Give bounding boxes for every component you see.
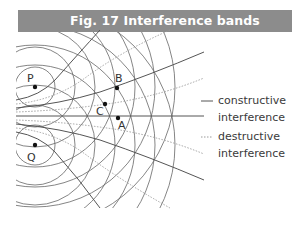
- label-b: B: [115, 72, 123, 85]
- label-a: A: [118, 119, 126, 132]
- legend-constructive-line1: constructive: [218, 94, 286, 108]
- source-q-dot: [33, 143, 37, 147]
- legend-destructive-label: destructive interference: [218, 130, 285, 161]
- legend-destructive-line1: destructive: [218, 130, 285, 144]
- source-p-dot: [33, 85, 37, 89]
- label-q: Q: [27, 151, 36, 164]
- legend-destructive-line2: interference: [218, 147, 285, 161]
- legend-constructive-line2: interference: [218, 111, 286, 125]
- constructive-lines: [16, 30, 204, 208]
- label-p: P: [27, 72, 34, 85]
- label-c: C: [96, 105, 104, 118]
- point-b-dot: [115, 86, 119, 90]
- destructive-lines: [16, 30, 204, 208]
- legend-constructive-label: constructive interference: [218, 94, 286, 125]
